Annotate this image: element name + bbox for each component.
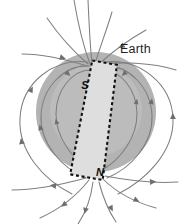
arrowhead-bottom-far-right bbox=[150, 179, 157, 185]
magnetic-field-diagram: S N Earth bbox=[0, 0, 190, 224]
north-pole-label: N bbox=[96, 166, 105, 178]
diagram-canvas: S N Earth bbox=[0, 0, 190, 224]
arrowhead-bottom-right bbox=[133, 196, 141, 204]
field-line-bottom-left bbox=[40, 180, 89, 218]
south-pole-label: S bbox=[81, 79, 89, 91]
earth-label: Earth bbox=[120, 42, 151, 56]
field-line-bottom-far-left bbox=[12, 178, 86, 190]
field-line-bottom-center-left bbox=[78, 182, 93, 224]
arrowhead-right-outer-mid bbox=[170, 113, 176, 119]
arrowhead-bottom-center bbox=[82, 207, 89, 214]
arrowhead-left-outer-lower bbox=[18, 137, 25, 144]
field-line-bottom-right bbox=[103, 179, 156, 208]
